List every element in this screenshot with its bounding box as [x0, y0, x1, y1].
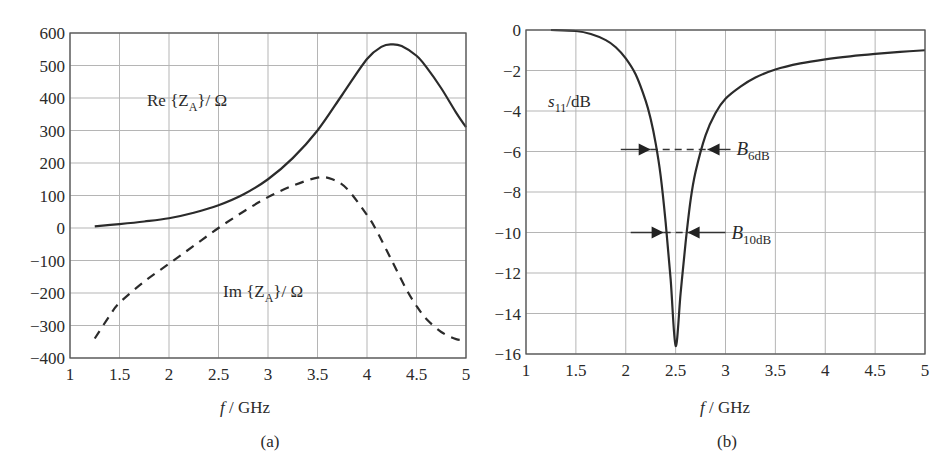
y-tick-label: −100: [30, 252, 65, 271]
arrow-right-icon: [639, 143, 651, 155]
y-tick-label: −6: [503, 143, 521, 162]
y-tick-label: −200: [30, 284, 65, 303]
y-tick-label: 400: [40, 89, 66, 108]
figure: 6005004003002001000−100−200−300−400 11.5…: [0, 0, 951, 472]
panel-b-s11-chart: B6dBB10dB 0−2−4−6−8−10−12−14−16 11.522.5…: [494, 21, 929, 451]
arrow-right-icon: [652, 227, 664, 239]
annotation-label-b-6db: B6dB: [736, 138, 770, 163]
a-legend-re-label: Re {ZA}/ Ω: [147, 91, 227, 114]
b-y-axis-label: s11/dB: [548, 92, 591, 115]
a-legend-im-label: Im {ZA}/ Ω: [223, 282, 303, 305]
x-tick-label: 4.5: [406, 365, 427, 384]
x-tick-label: 4: [821, 361, 830, 380]
y-tick-label: 0: [513, 21, 522, 40]
y-tick-label: 300: [40, 122, 66, 141]
x-tick-label: 5: [921, 361, 930, 380]
a-y-tick-labels: 6005004003002001000−100−200−300−400: [30, 24, 65, 368]
arrow-left-icon: [708, 143, 720, 155]
x-tick-label: 4.5: [865, 361, 886, 380]
b-x-axis-label: f / GHz: [700, 398, 751, 417]
x-tick-label: 3.5: [307, 365, 328, 384]
a-caption: (a): [261, 432, 280, 451]
y-tick-label: −300: [30, 317, 65, 336]
y-tick-label: −400: [30, 349, 65, 368]
arrow-left-icon: [688, 227, 700, 239]
y-tick-label: 500: [40, 57, 66, 76]
x-tick-label: 3: [721, 361, 730, 380]
y-tick-label: −8: [503, 183, 521, 202]
x-tick-label: 4: [363, 365, 372, 384]
x-tick-label: 2: [165, 365, 174, 384]
a-x-axis-label: f / GHz: [220, 398, 271, 417]
y-tick-label: −4: [503, 102, 522, 121]
b-caption: (b): [717, 432, 737, 451]
y-tick-label: −12: [494, 264, 521, 283]
y-tick-label: 100: [40, 187, 66, 206]
x-tick-label: 2.5: [665, 361, 686, 380]
series-s11: [551, 30, 925, 346]
x-tick-label: 3: [264, 365, 273, 384]
x-tick-label: 2.5: [208, 365, 229, 384]
annotation-label-b-10db: B10dB: [732, 222, 772, 247]
y-tick-label: −10: [494, 224, 521, 243]
y-tick-label: −16: [494, 345, 521, 364]
x-tick-label: 5: [462, 365, 471, 384]
x-tick-label: 1.5: [565, 361, 586, 380]
a-gridlines: [70, 33, 466, 358]
series-im-z-a-: [95, 177, 466, 340]
y-tick-label: 200: [40, 154, 66, 173]
x-tick-label: 1.5: [109, 365, 130, 384]
x-tick-label: 2: [622, 361, 631, 380]
b-x-tick-labels: 11.522.533.544.55: [522, 361, 930, 380]
y-tick-label: −14: [494, 305, 521, 324]
series-re-z-a-: [95, 44, 466, 226]
x-tick-label: 1: [522, 361, 531, 380]
b-y-tick-labels: 0−2−4−6−8−10−12−14−16: [494, 21, 521, 364]
a-x-tick-labels: 11.522.533.544.55: [66, 365, 471, 384]
y-tick-label: 600: [40, 24, 66, 43]
b-series: [551, 30, 925, 346]
y-tick-label: −2: [503, 62, 521, 81]
b-gridlines: [526, 30, 925, 354]
y-tick-label: 0: [57, 219, 66, 238]
panel-a-impedance-chart: 6005004003002001000−100−200−300−400 11.5…: [30, 24, 470, 451]
x-tick-label: 3.5: [765, 361, 786, 380]
x-tick-label: 1: [66, 365, 75, 384]
